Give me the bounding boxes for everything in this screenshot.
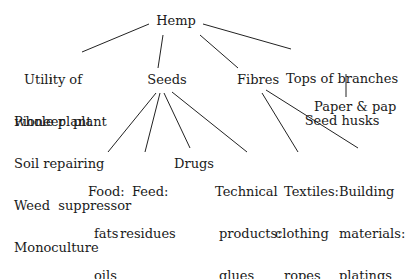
technical-line: glues (215, 269, 282, 279)
building-line: materials: (339, 227, 405, 241)
node-seeds: Seeds (145, 73, 189, 87)
utility-item: Pioneer plant (14, 115, 131, 129)
textiles-line: ropes (275, 269, 339, 279)
technical-label: Technical (215, 185, 282, 199)
building-line: platings (339, 269, 405, 279)
node-paper: Paper & pap (314, 100, 386, 114)
fibre-building: Building materials: platings for chips l… (339, 157, 405, 279)
root-hemp: Hemp (150, 14, 202, 28)
feed-line: residues (120, 227, 176, 241)
tops-line: Seed husks (286, 114, 398, 128)
node-tops: Tops of branches Seed husks (286, 44, 398, 142)
utility-title-line: Utility of (8, 73, 98, 87)
seed-drugs: Drugs (174, 157, 214, 171)
textiles-label: Textiles: (275, 185, 339, 199)
fibre-textiles: Textiles: clothing ropes linings for bra… (275, 157, 339, 279)
tops-line: Tops of branches (286, 72, 398, 86)
node-fibres: Fibres (237, 73, 279, 87)
feed-label: Feed: (120, 185, 176, 199)
seed-feed: Feed: residues (120, 157, 176, 255)
textiles-line: clothing (275, 227, 339, 241)
food-line: oils (88, 269, 125, 279)
building-label: Building (339, 185, 405, 199)
seed-technical: Technical products: glues foils dyes soa… (215, 157, 282, 279)
technical-line: products: (215, 227, 282, 241)
